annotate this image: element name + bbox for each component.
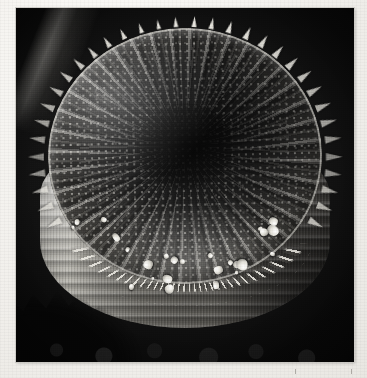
mineral-granule	[151, 277, 154, 280]
debris-bottom-edge	[16, 326, 354, 362]
registration-tick-right	[351, 369, 352, 374]
registration-tick-left	[295, 369, 296, 374]
diatom-frustule	[34, 24, 336, 342]
sem-micrograph-plate	[16, 8, 354, 362]
bead-ring	[62, 174, 312, 306]
paper-page	[0, 0, 367, 378]
marginal-spine	[326, 153, 343, 161]
marginal-spine	[325, 169, 342, 178]
marginal-spine	[28, 169, 45, 178]
marginal-spine	[31, 185, 49, 196]
mineral-granule	[237, 259, 248, 270]
marginal-spine	[28, 153, 44, 161]
marginal-spine	[173, 17, 178, 27]
marginal-spine	[191, 16, 197, 27]
marginal-spine	[320, 116, 338, 127]
mineral-granule	[74, 218, 80, 225]
